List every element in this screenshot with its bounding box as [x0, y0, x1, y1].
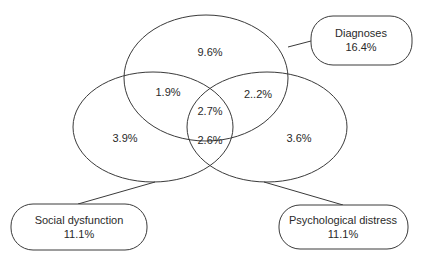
psychological-distress-total: 11.1%: [328, 228, 359, 240]
diagnoses-connector: [288, 41, 311, 47]
social-dysfunction-ellipse: [73, 72, 233, 182]
social-dysfunction-label-box: Social dysfunction 11.1%: [11, 204, 147, 250]
psych-connector: [264, 182, 343, 205]
diagnoses-label: Diagnoses: [335, 27, 387, 39]
diagnoses-label-box: Diagnoses 16.4%: [311, 16, 412, 65]
region-social-only: 3.9%: [112, 132, 137, 144]
diagnoses-total: 16.4%: [345, 41, 376, 53]
psychological-distress-label: Psychological distress: [289, 214, 398, 226]
region-diagnoses-psych: 2..2%: [244, 88, 272, 100]
region-psych-only: 3.6%: [286, 132, 311, 144]
region-diagnoses-social: 1.9%: [155, 86, 180, 98]
region-social-psych: 2.6%: [197, 134, 222, 146]
psychological-distress-label-box: Psychological distress 11.1%: [279, 205, 408, 249]
social-connector: [78, 182, 155, 204]
region-all-three: 2.7%: [197, 105, 222, 117]
diagnoses-ellipse: [124, 15, 288, 141]
region-diagnoses-only: 9.6%: [197, 46, 222, 58]
venn-diagram: 9.6% 1.9% 2..2% 2.7% 3.9% 2.6% 3.6% Diag…: [0, 0, 423, 259]
social-dysfunction-total: 11.1%: [64, 228, 95, 240]
social-dysfunction-label: Social dysfunction: [35, 214, 124, 226]
